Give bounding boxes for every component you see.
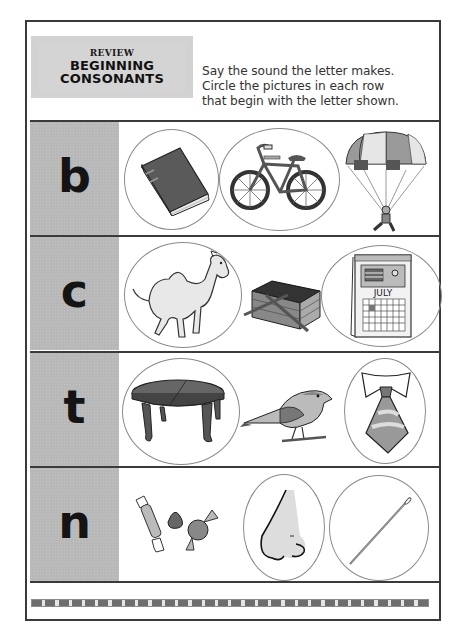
picnic-basket-icon[interactable]: [242, 277, 322, 333]
letter-b: b: [58, 153, 91, 199]
title-consonants: CONSONANTS: [60, 72, 164, 85]
candy-icon[interactable]: [134, 492, 224, 562]
bicycle-icon[interactable]: [228, 142, 328, 212]
table-icon[interactable]: [130, 379, 226, 449]
letter-cell-n: n: [30, 468, 119, 581]
camel-icon[interactable]: [129, 249, 239, 345]
tie-icon[interactable]: [358, 369, 414, 457]
calendar-icon[interactable]: JULY: [349, 251, 413, 339]
letter-c: c: [61, 268, 88, 314]
letter-cell-c: c: [30, 237, 119, 350]
instruction-line-2: Circle the pictures in each row: [202, 79, 442, 94]
row-n: n: [30, 466, 439, 583]
title-review: REVIEW: [90, 49, 134, 58]
letter-cell-t: t: [30, 353, 119, 466]
row-b: b: [30, 120, 439, 235]
letter-cell-b: b: [30, 122, 119, 235]
instruction-line-3: that begin with the letter shown.: [202, 94, 442, 109]
bird-icon[interactable]: [240, 383, 336, 445]
book-icon[interactable]: [134, 146, 214, 216]
needle-icon[interactable]: [346, 492, 416, 568]
parachute-icon[interactable]: [344, 130, 428, 232]
title-box: REVIEW BEGINNING CONSONANTS: [31, 36, 193, 98]
row-t: t: [30, 351, 439, 466]
letter-t: t: [64, 384, 86, 430]
instruction-line-1: Say the sound the letter makes.: [202, 64, 442, 79]
letter-n: n: [58, 499, 91, 545]
nose-icon[interactable]: [256, 488, 312, 564]
decorative-checkered-strip: [31, 599, 429, 607]
instructions: Say the sound the letter makes. Circle t…: [202, 64, 442, 109]
svg-text:JULY: JULY: [373, 288, 393, 298]
row-c: c: [30, 235, 439, 350]
worksheet-page: REVIEW BEGINNING CONSONANTS Say the soun…: [25, 20, 441, 621]
